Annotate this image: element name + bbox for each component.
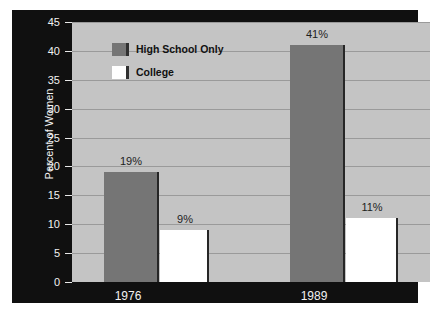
x-tick-label-1976: 1976: [88, 289, 168, 303]
high-school-swatch-icon: [112, 43, 129, 56]
gridline-45: [72, 22, 430, 23]
y-tick-mark-5: [65, 253, 72, 254]
college-swatch-icon: [112, 66, 129, 79]
y-tick-label-45: 45: [30, 17, 60, 28]
legend-item-high-school-only: High School Only: [112, 40, 262, 58]
y-tick-label-40: 40: [30, 46, 60, 57]
y-tick-mark-20: [65, 166, 72, 167]
y-tick-mark-0: [65, 282, 72, 283]
bar-chart-figure: Percent of Women 051015202530354045 1976…: [0, 0, 430, 318]
value-label-1989-high-school-only: 41%: [282, 28, 352, 40]
y-tick-mark-25: [65, 138, 72, 139]
value-label-1976-college: 9%: [150, 213, 220, 225]
plot-area: 19% 9% 41% 11% High School Only College: [72, 22, 430, 282]
bar-1989-high-school-only: [290, 45, 345, 282]
bar-1989-college: [346, 218, 398, 282]
y-tick-mark-40: [65, 51, 72, 52]
y-tick-label-35: 35: [30, 75, 60, 86]
legend-item-college: College: [112, 63, 262, 81]
y-tick-label-5: 5: [30, 248, 60, 259]
y-tick-label-20: 20: [30, 161, 60, 172]
y-tick-label-10: 10: [30, 219, 60, 230]
bar-1976-high-school-only: [104, 172, 159, 282]
chart-legend: High School Only College: [112, 40, 262, 86]
bar-1976-college: [160, 230, 209, 282]
y-tick-label-0: 0: [30, 277, 60, 288]
y-tick-mark-45: [65, 22, 72, 23]
gridline-30: [72, 109, 430, 110]
value-label-1989-college: 11%: [337, 201, 407, 213]
y-tick-mark-35: [65, 80, 72, 81]
chart-panel: Percent of Women 051015202530354045 1976…: [12, 10, 418, 303]
gridline-25: [72, 138, 430, 139]
y-tick-label-25: 25: [30, 133, 60, 144]
y-tick-label-30: 30: [30, 104, 60, 115]
y-tick-mark-30: [65, 109, 72, 110]
legend-label-high-school-only: High School Only: [136, 43, 224, 55]
legend-label-college: College: [136, 66, 174, 78]
y-tick-mark-10: [65, 224, 72, 225]
y-tick-label-15: 15: [30, 190, 60, 201]
value-label-1976-high-school-only: 19%: [96, 155, 166, 167]
y-tick-mark-15: [65, 195, 72, 196]
x-tick-label-1989: 1989: [274, 289, 354, 303]
